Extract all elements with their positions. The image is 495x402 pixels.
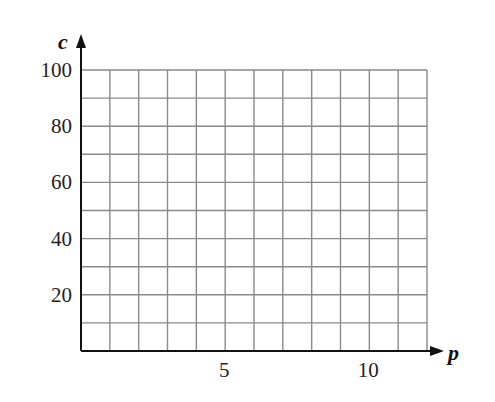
y-tick-label: 100 xyxy=(41,58,73,82)
x-tick-label: 5 xyxy=(219,358,230,382)
axes xyxy=(76,34,444,356)
y-tick-label: 80 xyxy=(51,114,72,138)
x-axis-label: p xyxy=(446,340,459,365)
y-axis-label: c xyxy=(58,29,68,54)
x-tick-label: 10 xyxy=(358,358,379,382)
y-axis-arrow-icon xyxy=(76,34,86,48)
x-tick-labels: 510 xyxy=(219,358,379,382)
y-tick-labels: 20406080100 xyxy=(41,58,73,307)
y-tick-label: 20 xyxy=(51,283,72,307)
x-axis-arrow-icon xyxy=(430,346,444,356)
y-tick-label: 60 xyxy=(51,170,72,194)
grid-lines xyxy=(81,70,427,351)
y-tick-label: 40 xyxy=(51,227,72,251)
blank-grid-chart: 20406080100 510 c p xyxy=(0,0,495,402)
